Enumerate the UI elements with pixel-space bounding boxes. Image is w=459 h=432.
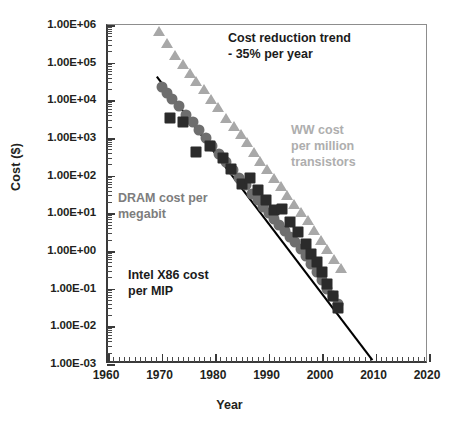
data-point-square (177, 117, 188, 128)
x-tick-label: 1960 (76, 368, 136, 382)
y-tick-label: 1.00E-01 (0, 282, 96, 294)
data-point-triangle (212, 102, 224, 112)
data-point-triangle (302, 215, 314, 225)
x-tick-label: 1990 (237, 368, 297, 382)
x-tick-label: 2000 (290, 368, 350, 382)
data-point-square (317, 267, 328, 278)
data-point-square (218, 152, 229, 163)
x-tick-label: 1970 (130, 368, 190, 382)
data-point-square (204, 141, 215, 152)
y-tick-label: 1.00E+02 (0, 169, 96, 181)
data-point-triangle (198, 84, 210, 94)
data-point-square (252, 184, 263, 195)
data-point-triangle (153, 26, 165, 36)
y-tick-label: 1.00E-02 (0, 319, 96, 331)
annotation-intel-x86-cost: Intel X86 cost per MIP (128, 267, 209, 299)
data-point-square (191, 146, 202, 157)
y-tick-label: 1.00E+03 (0, 131, 96, 143)
figure-caption (58, 421, 438, 432)
data-point-triangle (161, 38, 173, 48)
annotation-dram-cost: DRAM cost per megabit (118, 190, 208, 222)
x-axis-tick (429, 354, 431, 362)
figure: Cost ($) Year 1.00E+061.00E+051.00E+041.… (0, 0, 459, 432)
y-axis-tick (107, 364, 115, 366)
x-tick-label: 2020 (397, 368, 457, 382)
y-tick-label: 1.00E+06 (0, 18, 96, 30)
data-point-square (226, 164, 237, 175)
y-tick-label: 1.00E+04 (0, 93, 96, 105)
data-point-square (333, 303, 344, 314)
y-tick-label: 1.00E+01 (0, 206, 96, 218)
data-point-triangle (335, 263, 347, 273)
y-tick-label: 1.00E+05 (0, 56, 96, 68)
data-point-triangle (241, 137, 253, 147)
data-point-square (292, 226, 303, 237)
x-tick-label: 2010 (344, 368, 404, 382)
annotation-ww-cost: WW cost per million transistors (291, 122, 356, 170)
data-point-square (276, 204, 287, 215)
data-point-triangle (315, 235, 327, 245)
data-point-triangle (308, 225, 320, 235)
data-point-square (327, 290, 338, 301)
y-tick-label: 1.00E+00 (0, 244, 96, 256)
annotation-cost-reduction-trend: Cost reduction trend - 35% per year (228, 30, 351, 62)
data-point-square (164, 113, 175, 124)
data-point-square (322, 279, 333, 290)
x-tick-label: 1980 (183, 368, 243, 382)
data-point-square (244, 172, 255, 183)
x-axis-title: Year (0, 398, 459, 412)
